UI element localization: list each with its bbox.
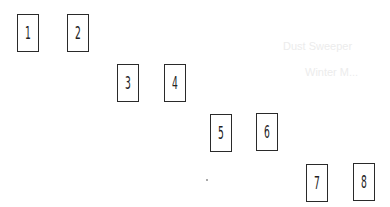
card-box-3: 3 — [117, 64, 139, 102]
card-number: 4 — [172, 73, 178, 93]
card-number: 1 — [25, 23, 31, 43]
card-number: 2 — [75, 23, 81, 43]
card-box-8: 8 — [353, 163, 375, 201]
card-number: 5 — [218, 123, 224, 143]
scan-speck — [206, 179, 208, 181]
card-box-1: 1 — [17, 14, 39, 52]
card-box-6: 6 — [256, 113, 278, 151]
card-number: 6 — [264, 122, 270, 142]
card-box-2: 2 — [67, 14, 89, 52]
card-box-4: 4 — [164, 64, 186, 102]
card-number: 7 — [314, 173, 320, 193]
card-number: 8 — [361, 172, 367, 192]
bleed-through-text-2: Winter M... — [305, 66, 358, 78]
card-box-5: 5 — [210, 114, 232, 152]
card-number: 3 — [125, 73, 131, 93]
card-box-7: 7 — [306, 164, 328, 202]
bleed-through-text-1: Dust Sweeper — [283, 40, 352, 52]
